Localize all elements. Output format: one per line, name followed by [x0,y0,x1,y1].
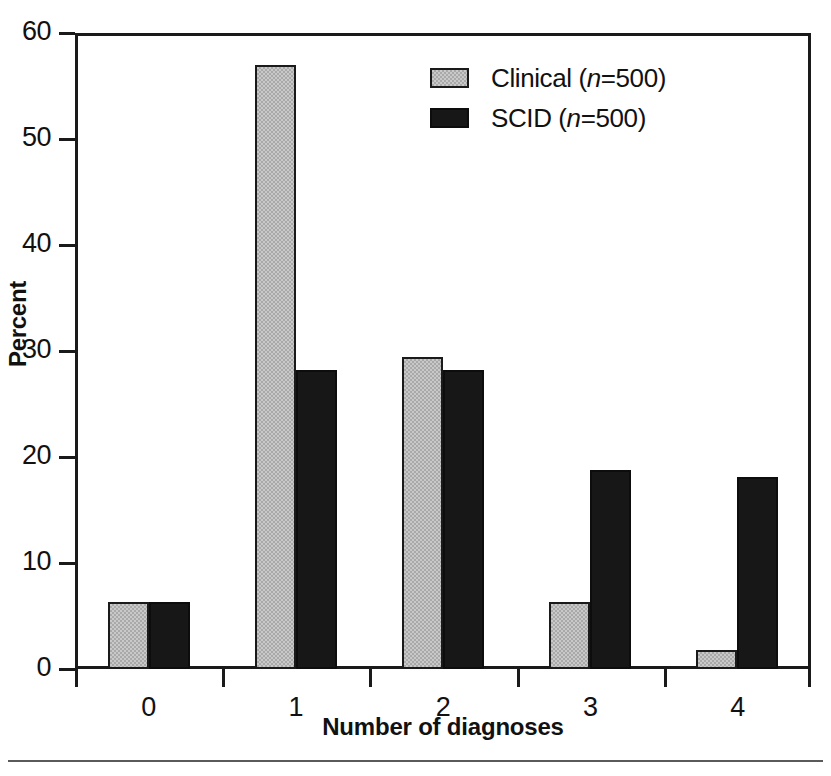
y-axis-title: Percent [4,244,32,404]
legend: Clinical (n=500) SCID (n=500) [430,58,666,138]
bar-clinical-4 [696,650,737,669]
x-tick-mark [517,669,520,687]
y-tick-mark [59,32,75,35]
x-tick-mark [808,669,811,687]
y-tick-mark [59,668,75,671]
bar-clinical-3 [549,602,590,669]
legend-label-clinical: Clinical (n=500) [491,64,666,92]
x-axis-title: Number of diagnoses [75,713,811,741]
y-tick-mark [59,562,75,565]
x-tick-mark [664,669,667,687]
y-tick-label: 0 [36,652,51,682]
y-tick-mark [59,456,75,459]
scid-swatch-icon [430,108,469,128]
bar-scid-4 [737,477,778,669]
bar-scid-1 [296,370,337,669]
bar-clinical-0 [108,602,149,669]
bar-clinical-1 [255,65,296,669]
y-tick-label: 60 [22,16,51,46]
legend-item-scid[interactable]: SCID (n=500) [430,98,666,138]
y-tick-mark [59,244,75,247]
y-tick-mark [59,350,75,353]
clinical-swatch-icon [430,68,469,88]
bar-clinical-2 [402,357,443,669]
bottom-divider-rule [8,760,823,762]
bar-scid-0 [149,602,190,669]
y-tick-label: 20 [22,440,51,470]
y-tick-label: 50 [22,122,51,152]
legend-label-scid: SCID (n=500) [491,104,646,132]
figure-bar-chart: 0102030405060 Percent Clinical (n=500) S… [0,0,831,776]
bar-scid-3 [590,470,631,669]
legend-item-clinical[interactable]: Clinical (n=500) [430,58,666,98]
y-tick-label: 10 [22,546,51,576]
x-tick-mark [75,669,78,687]
x-tick-mark [369,669,372,687]
y-tick-mark [59,138,75,141]
bar-scid-2 [443,370,484,669]
x-tick-mark [222,669,225,687]
